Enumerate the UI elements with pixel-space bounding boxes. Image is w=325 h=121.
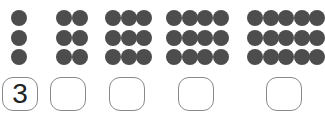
dot	[11, 30, 27, 46]
dot	[197, 49, 213, 65]
dot	[247, 30, 263, 46]
dot	[166, 30, 182, 46]
dot	[263, 30, 279, 46]
dot	[166, 10, 182, 26]
dot	[72, 30, 88, 46]
dot	[278, 49, 294, 65]
dot	[278, 30, 294, 46]
dot	[11, 10, 27, 26]
answer-box-2[interactable]	[50, 77, 86, 111]
answer-box-3[interactable]	[109, 77, 145, 111]
dot	[11, 49, 27, 65]
dot	[294, 10, 310, 26]
dot	[105, 10, 121, 26]
dot	[213, 49, 229, 65]
dot	[72, 49, 88, 65]
dot	[263, 10, 279, 26]
dot	[121, 30, 137, 46]
answer-box-5[interactable]	[266, 77, 302, 111]
dot	[247, 49, 263, 65]
dot	[278, 10, 294, 26]
dot	[56, 49, 72, 65]
dot	[56, 10, 72, 26]
dot	[105, 49, 121, 65]
dot	[72, 10, 88, 26]
dot	[263, 49, 279, 65]
dot	[213, 30, 229, 46]
dot	[309, 10, 325, 26]
answer-box-4[interactable]	[178, 77, 214, 111]
dot	[309, 30, 325, 46]
dot	[166, 49, 182, 65]
dot	[197, 30, 213, 46]
dot	[136, 10, 152, 26]
dot	[136, 30, 152, 46]
dot	[56, 30, 72, 46]
dot	[182, 10, 198, 26]
dot	[182, 49, 198, 65]
answer-box-1[interactable]: 3	[2, 77, 38, 111]
dot	[247, 10, 263, 26]
dot	[182, 30, 198, 46]
dot	[121, 10, 137, 26]
dot	[213, 10, 229, 26]
dot	[309, 49, 325, 65]
dot	[121, 49, 137, 65]
dot	[294, 30, 310, 46]
dot	[197, 10, 213, 26]
dot	[105, 30, 121, 46]
dot	[294, 49, 310, 65]
dot	[136, 49, 152, 65]
